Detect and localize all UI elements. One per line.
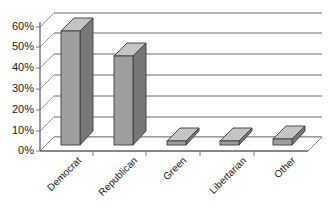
bar-side-democrat xyxy=(80,18,93,145)
bar-front-green xyxy=(167,141,186,145)
bar-front-libertarian xyxy=(220,141,239,145)
bar-side-republican xyxy=(133,43,146,145)
y-axis-label-60: 60% xyxy=(12,20,34,32)
y-axis-label-10: 10% xyxy=(12,124,34,136)
y-axis-label-30: 30% xyxy=(12,82,34,94)
bar-republican xyxy=(114,43,146,145)
y-axis-label-40: 40% xyxy=(12,61,34,73)
bar-front-republican xyxy=(114,56,133,145)
chart-container: 60% 50% 40% 30% 20% 10% 0% xyxy=(0,0,331,214)
y-axis-label-50: 50% xyxy=(12,40,34,52)
y-axis-labels: 60% 50% 40% 30% 20% 10% 0% xyxy=(12,20,34,156)
y-axis-label-0: 0% xyxy=(18,144,34,156)
y-axis-label-20: 20% xyxy=(12,103,34,115)
bar-front-other xyxy=(273,139,292,145)
bar-chart-3d: 60% 50% 40% 30% 20% 10% 0% xyxy=(0,0,331,214)
bar-front-democrat xyxy=(61,31,80,145)
bar-democrat xyxy=(61,18,93,145)
